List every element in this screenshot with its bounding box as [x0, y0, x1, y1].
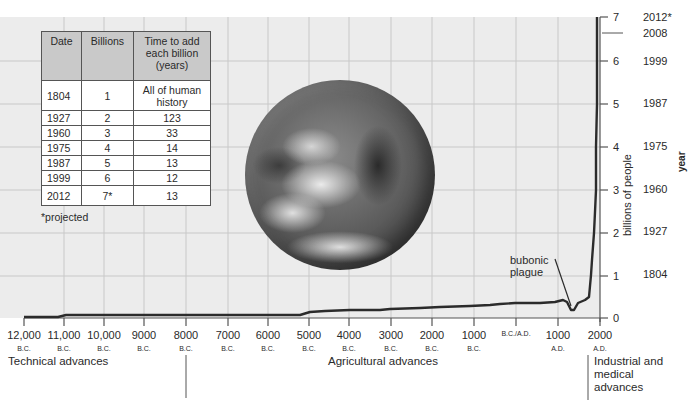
svg-text:1927: 1927 [643, 225, 667, 237]
svg-text:B.C.: B.C. [342, 345, 356, 352]
svg-text:B.C.: B.C. [261, 345, 275, 352]
earth-globe-image [245, 80, 435, 270]
x-tick-labels: 12,000 B.C. 11,000 B.C. 10,000 B.C. 9000… [7, 329, 612, 352]
svg-text:B.C./A.D.: B.C./A.D. [501, 330, 530, 337]
svg-text:1804: 1804 [643, 268, 667, 280]
table-header-row: Date Billions Time to add each billion (… [42, 32, 211, 81]
section-technical: Technical advances [8, 355, 109, 367]
section-industrial-line3: advances [594, 381, 643, 393]
header-time: Time to add each billion (years) [134, 32, 211, 81]
svg-text:B.C.: B.C. [302, 345, 316, 352]
svg-text:1000: 1000 [462, 329, 486, 341]
svg-text:B.C.: B.C. [467, 345, 481, 352]
svg-text:B.C.: B.C. [97, 345, 111, 352]
year-labels: 2012* 2008 1999 1987 1975 1960 1927 1804 [643, 11, 672, 280]
plague-label-line1: bubonic [510, 254, 549, 266]
header-billions: Billions [82, 32, 134, 81]
table-row: 1999 6 12 [42, 171, 211, 186]
plague-label-line2: plague [510, 266, 543, 278]
svg-text:2000: 2000 [420, 329, 444, 341]
svg-text:4000: 4000 [337, 329, 361, 341]
svg-text:B.C.: B.C. [57, 345, 71, 352]
svg-text:B.C.: B.C. [425, 345, 439, 352]
svg-text:9000: 9000 [132, 329, 156, 341]
svg-text:B.C.: B.C. [137, 345, 151, 352]
svg-text:11,000: 11,000 [48, 329, 81, 341]
header-date: Date [42, 32, 82, 81]
svg-text:8000: 8000 [174, 329, 198, 341]
svg-text:2: 2 [613, 227, 619, 239]
svg-text:10,000: 10,000 [87, 329, 121, 341]
svg-text:A.D.: A.D. [551, 345, 565, 352]
population-table: Date Billions Time to add each billion (… [41, 31, 211, 206]
svg-text:A.D.: A.D. [593, 345, 607, 352]
table-row: 1987 5 13 [42, 156, 211, 171]
svg-text:B.C.: B.C. [384, 345, 398, 352]
table-row: 1960 3 33 [42, 126, 211, 141]
svg-text:1975: 1975 [643, 140, 667, 152]
svg-text:2008: 2008 [643, 27, 667, 39]
svg-text:B.C.: B.C. [17, 345, 31, 352]
section-industrial-line1: Industrial and [594, 355, 663, 367]
y-tick-labels: 7 6 5 4 3 2 1 0 [613, 11, 619, 324]
svg-text:2000: 2000 [588, 329, 612, 341]
table-row: 2012 7* 13 [42, 186, 211, 206]
svg-text:4: 4 [613, 141, 619, 153]
table-footnote: *projected [41, 211, 88, 223]
svg-text:1987: 1987 [643, 97, 667, 109]
svg-text:1960: 1960 [643, 183, 667, 195]
section-agricultural: Agricultural advances [328, 355, 438, 367]
svg-text:7: 7 [613, 11, 619, 23]
y-axis-ticks [600, 17, 608, 318]
svg-text:7000: 7000 [216, 329, 240, 341]
table-row: 1975 4 14 [42, 141, 211, 156]
svg-text:1999: 1999 [643, 55, 667, 67]
svg-text:B.C.: B.C. [221, 345, 235, 352]
year-axis-title: year [676, 151, 687, 172]
table-row: 1927 2 123 [42, 111, 211, 126]
svg-text:B.C.: B.C. [179, 345, 193, 352]
svg-text:12,000: 12,000 [7, 329, 41, 341]
svg-text:6: 6 [613, 55, 619, 67]
x-axis-ticks [24, 318, 600, 326]
svg-text:3000: 3000 [379, 329, 403, 341]
svg-text:1000: 1000 [546, 329, 570, 341]
svg-text:0: 0 [613, 312, 619, 324]
y-axis-title: billions of people [621, 154, 633, 236]
svg-text:5: 5 [613, 98, 619, 110]
section-industrial-line2: medical [594, 368, 634, 380]
svg-text:3: 3 [613, 184, 619, 196]
svg-text:5000: 5000 [297, 329, 321, 341]
table-row: 1804 1 All of humanhistory [42, 81, 211, 111]
svg-text:2012*: 2012* [643, 11, 672, 23]
svg-text:6000: 6000 [256, 329, 280, 341]
svg-text:1: 1 [613, 270, 619, 282]
